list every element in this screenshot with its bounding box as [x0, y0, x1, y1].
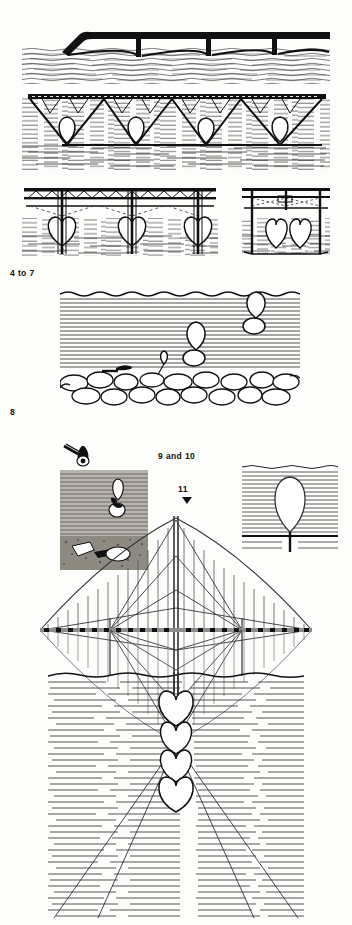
panel-trestle-right — [240, 184, 332, 256]
panel-suspension-bridge — [40, 500, 312, 920]
caption-8: 8 — [10, 407, 15, 417]
panel-truss-bridge-moorings — [22, 88, 330, 170]
caption-11: 11 — [178, 484, 188, 494]
mooring-detail-icon — [62, 442, 98, 468]
illustration-plate: 4 to 7 — [0, 0, 352, 925]
panel-seabed-section — [60, 290, 300, 408]
panel-arch-viaduct — [22, 22, 330, 84]
caption-9-and-10: 9 and 10 — [158, 451, 195, 461]
caption-4-to-7: 4 to 7 — [10, 268, 35, 278]
panel-trestle-left — [22, 184, 218, 256]
